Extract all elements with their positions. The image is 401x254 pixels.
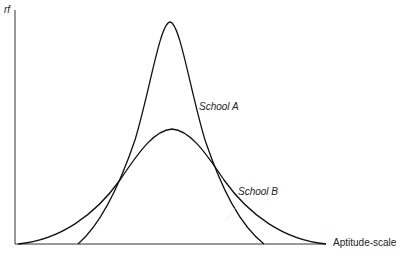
distribution-diagram — [0, 0, 401, 254]
school-b-label: School B — [238, 186, 278, 197]
school-a-curve — [78, 22, 264, 244]
y-axis-label: rf — [4, 4, 10, 15]
school-a-label: School A — [199, 101, 239, 112]
school-b-curve — [18, 129, 326, 244]
x-axis-label: Aptitude-scale — [333, 237, 396, 248]
